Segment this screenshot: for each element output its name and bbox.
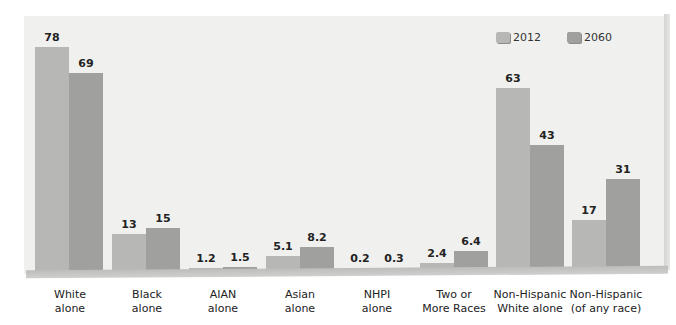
legend-item-2012: 2012 xyxy=(496,29,541,45)
bar-2060-0 xyxy=(69,73,103,272)
legend-label-2060: 2060 xyxy=(584,31,612,44)
bar-2060-6 xyxy=(530,145,564,269)
value-label-2012-6: 63 xyxy=(493,72,533,85)
legend-item-2060: 2060 xyxy=(567,29,612,45)
category-label-hispanic-any-race: Non-Hispanic(of any race) xyxy=(561,288,651,316)
value-label-2012-5: 2.4 xyxy=(417,247,457,260)
value-label-2060-6: 43 xyxy=(527,129,567,142)
value-label-2012-7: 17 xyxy=(569,204,609,217)
value-label-2012-0: 78 xyxy=(32,31,72,44)
bar-2012-7 xyxy=(572,220,606,269)
bar-2012-6 xyxy=(496,88,530,269)
legend-label-2012: 2012 xyxy=(513,31,541,44)
value-label-2060-1: 15 xyxy=(143,212,183,225)
value-label-2060-0: 69 xyxy=(66,57,106,70)
bar-2060-1 xyxy=(146,228,180,271)
value-label-2060-7: 31 xyxy=(603,163,643,176)
value-label-2060-3: 8.2 xyxy=(297,231,337,244)
bar-2060-3 xyxy=(300,247,334,271)
chart-panel-edge xyxy=(664,14,670,270)
legend-swatch-2060-icon xyxy=(567,32,581,43)
bar-2060-7 xyxy=(606,179,640,268)
bar-2012-1 xyxy=(112,234,146,271)
value-label-2060-4: 0.3 xyxy=(374,252,414,265)
bar-2012-0 xyxy=(35,47,69,272)
value-label-2060-2: 1.5 xyxy=(220,251,260,264)
value-label-2060-5: 6.4 xyxy=(451,235,491,248)
legend-swatch-2012-icon xyxy=(496,32,510,43)
